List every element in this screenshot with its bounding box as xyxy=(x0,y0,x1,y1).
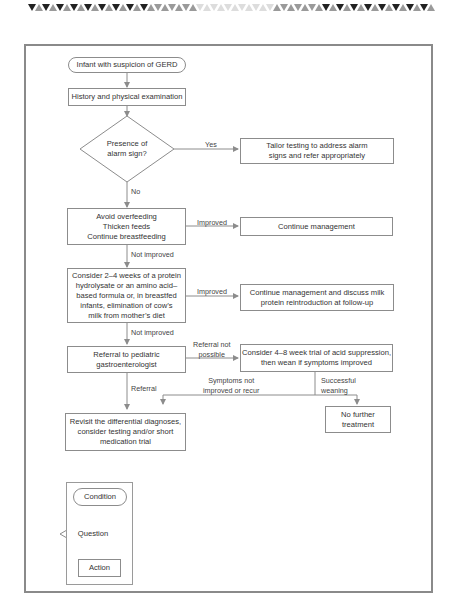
successful-weaning-label: Successful weaning xyxy=(321,376,356,395)
formula-improved-label: Improved xyxy=(197,287,227,297)
alarm-question-text: Presence of alarm sign? xyxy=(90,139,164,159)
continue-management-node: Continue management xyxy=(240,217,393,236)
legend-question-label: Question xyxy=(66,529,120,539)
symptoms-not-improved-label: Symptoms not improved or recur xyxy=(203,376,259,395)
feeding-action-node: Avoid overfeeding Thicken feeds Continue… xyxy=(67,208,186,245)
tailor-testing-action-node: Tailor testing to address alarm signs an… xyxy=(240,138,394,164)
referral-label: Referral xyxy=(131,384,157,394)
yes-label: Yes xyxy=(205,140,217,150)
no-label: No xyxy=(131,187,140,197)
legend-action-shape: Action xyxy=(78,559,121,577)
start-condition-node: Infant with suspicion of GERD xyxy=(68,57,186,73)
formula-action-node: Consider 2–4 weeks of a protein hydrolys… xyxy=(67,268,186,323)
feeding-not-improved-label: Not improved xyxy=(131,250,174,260)
referral-not-possible-label: Referral not possible xyxy=(193,340,231,359)
milk-reintroduction-node: Continue management and discuss milk pro… xyxy=(240,284,394,311)
no-further-treatment-node: No further treatment xyxy=(325,406,391,433)
acid-suppression-node: Consider 4–8 week trial of acid suppress… xyxy=(240,344,393,372)
history-action-node: History and physical examination xyxy=(68,88,186,106)
formula-not-improved-label: Not improved xyxy=(131,328,174,338)
feeding-improved-label: Improved xyxy=(197,218,227,228)
referral-action-node: Referral to pediatric gastroenterologist xyxy=(67,346,186,373)
revisit-diagnoses-node: Revisit the differential diagnoses, cons… xyxy=(65,413,186,451)
legend-condition-shape: Condition xyxy=(73,488,127,506)
